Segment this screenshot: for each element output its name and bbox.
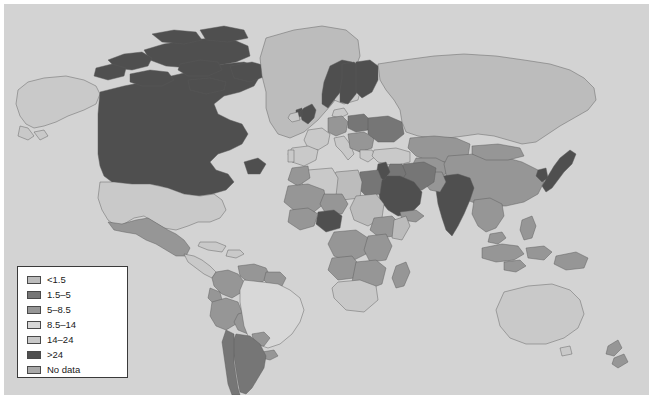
legend-label-3: 8.5–14 <box>47 320 76 330</box>
legend-label-6: No data <box>47 365 80 375</box>
map-legend: <1.5 1.5–5 5–8.5 8.5–14 14–24 >24 No dat… <box>17 266 128 378</box>
country-tasmania <box>560 346 572 356</box>
legend-swatch-5 <box>27 351 41 359</box>
legend-swatch-4 <box>27 336 41 344</box>
legend-label-0: <1.5 <box>47 275 66 285</box>
legend-item: 1.5–5 <box>27 287 127 302</box>
legend-item: 5–8.5 <box>27 302 127 317</box>
legend-item: No data <box>27 362 127 377</box>
legend-item: 14–24 <box>27 332 127 347</box>
legend-item: <1.5 <box>27 272 127 287</box>
legend-swatch-3 <box>27 321 41 329</box>
legend-label-5: >24 <box>47 350 63 360</box>
legend-swatch-1 <box>27 291 41 299</box>
legend-swatch-0 <box>27 276 41 284</box>
legend-item: >24 <box>27 347 127 362</box>
country-poland <box>348 114 370 132</box>
legend-label-4: 14–24 <box>47 335 73 345</box>
country-portugal <box>288 150 294 162</box>
legend-swatch-2 <box>27 306 41 314</box>
legend-label-2: 5–8.5 <box>47 305 71 315</box>
legend-swatch-6 <box>27 366 41 374</box>
legend-item: 8.5–14 <box>27 317 127 332</box>
world-map-figure: <1.5 1.5–5 5–8.5 8.5–14 14–24 >24 No dat… <box>0 0 653 399</box>
legend-label-1: 1.5–5 <box>47 290 71 300</box>
